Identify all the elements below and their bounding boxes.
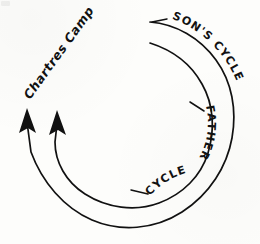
label-chartres-camp-text: Chartres Camp — [20, 3, 97, 101]
diagram-canvas: SON'S CYCLE FATHER'S CYCLE Chartres Camp — [0, 0, 260, 244]
cycle-diagram-svg: SON'S CYCLE FATHER'S CYCLE Chartres Camp — [0, 0, 260, 244]
label-chartres-camp: Chartres Camp — [20, 3, 97, 101]
label-sons-cycle-text: SON'S CYCLE — [171, 9, 247, 83]
label-fathers-cycle-lower-text: CYCLE — [143, 163, 188, 198]
inner-arrowhead-icon — [49, 110, 66, 135]
fathers-cycle-upper-leader-dash — [190, 102, 204, 111]
sons-cycle-leader-dash — [152, 19, 167, 22]
scan-artifact-smudge — [1, 1, 10, 6]
label-fathers-cycle-lower: CYCLE — [143, 163, 188, 198]
label-sons-cycle: SON'S CYCLE — [171, 9, 247, 83]
inner-arc-fathers-cycle — [55, 43, 212, 208]
